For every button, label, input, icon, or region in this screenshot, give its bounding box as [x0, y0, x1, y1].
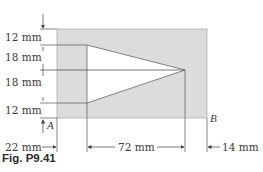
dim-label-14: 14 mm [222, 141, 259, 153]
dim-label-top-12: 12 mm [5, 31, 42, 43]
point-label-a: A [46, 119, 54, 131]
dim-label-upper-18: 18 mm [5, 51, 42, 63]
dim-label-bottom-12: 12 mm [5, 104, 42, 116]
dim-label-72: 72 mm [118, 141, 155, 153]
plate-diagram: 12 mm 18 mm 18 mm 12 mm A B 22 mm 72 mm … [0, 0, 263, 172]
dim-label-lower-18: 18 mm [5, 76, 42, 88]
point-label-b: B [210, 112, 217, 124]
figure-caption: Fig. P9.41 [2, 152, 56, 164]
